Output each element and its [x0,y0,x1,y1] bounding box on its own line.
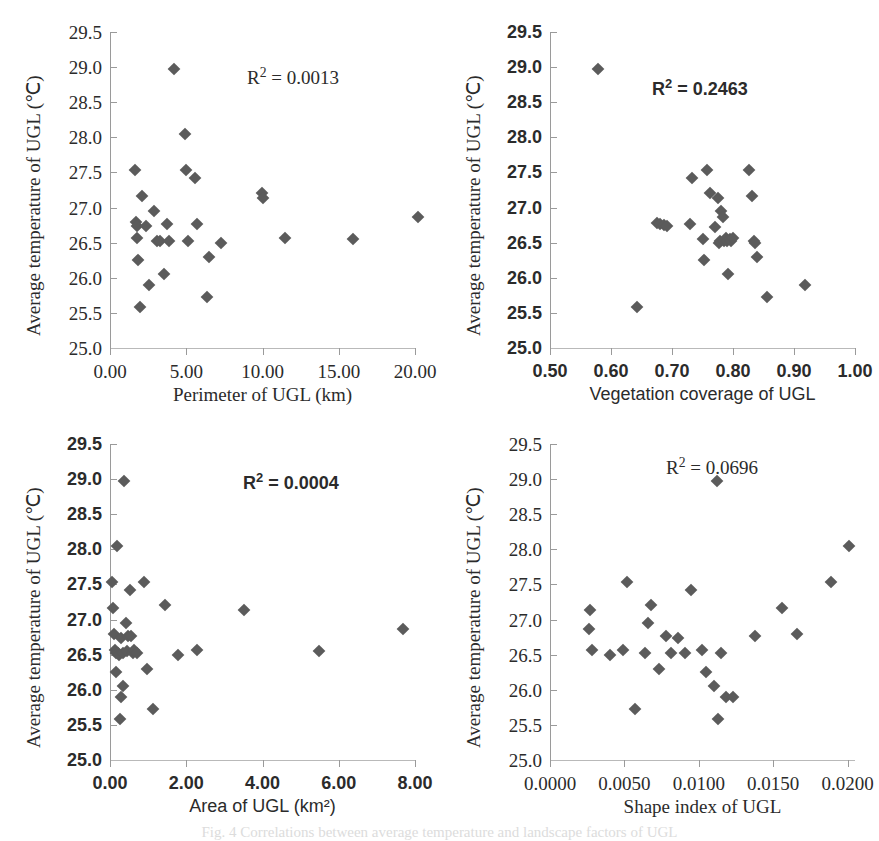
data-point [191,218,204,231]
x-tick-label-area-2: 4.00 [245,774,280,792]
y-tick-label-vegetation-2: 26.0 [507,269,542,287]
panel-area: Average temperature of UGL (℃) R2 = 0.00… [0,412,440,822]
data-point [799,278,812,291]
y-tick-vegetation-3 [550,243,557,244]
data-point [110,666,123,679]
y-tick-vegetation-6 [550,137,557,138]
data-point [697,233,710,246]
data-point [158,268,171,281]
x-tick-label-vegetation-4: 0.90 [776,362,811,380]
y-tick-label-shape-0: 25.0 [509,751,542,770]
figure-caption: Fig. 4 Correlations between average temp… [0,824,879,841]
data-point [791,628,804,641]
y-tick-label-shape-6: 28.0 [509,540,542,559]
y-tick-vegetation-1 [550,313,557,314]
data-point [136,189,149,202]
data-point [148,205,161,218]
data-point [684,217,697,230]
x-tick-perimeter-0 [110,348,111,355]
data-point [760,291,773,304]
data-point [825,575,838,588]
y-tick-label-area-4: 27.0 [67,611,102,629]
x-tick-label-vegetation-1: 0.60 [593,362,628,380]
y-axis-line-perimeter [110,32,111,348]
y-tick-perimeter-1 [110,313,117,314]
x-axis-title-perimeter: Perimeter of UGL (km) [110,385,415,406]
y-tick-label-perimeter-3: 26.5 [69,233,102,252]
data-point [161,217,174,230]
r-squared-text-perimeter: R2 = 0.0013 [247,67,339,88]
x-tick-perimeter-4 [415,348,416,355]
data-point [118,475,131,488]
data-point [743,163,756,176]
y-tick-area-2 [110,690,117,691]
data-point [140,662,153,675]
data-point [168,63,181,76]
data-point [129,163,142,176]
y-tick-label-shape-1: 25.5 [509,715,542,734]
x-tick-vegetation-1 [611,348,612,355]
data-point [313,645,326,658]
data-point [679,647,692,660]
x-tick-shape-1 [624,760,625,767]
y-tick-vegetation-9 [550,32,557,33]
data-point [257,192,270,205]
y-tick-shape-7 [550,514,557,515]
y-tick-label-area-6: 28.0 [67,540,102,558]
x-tick-area-2 [263,760,264,767]
y-tick-label-vegetation-5: 27.5 [507,163,542,181]
data-point [178,127,191,140]
data-point [715,646,728,659]
data-point [617,644,630,657]
x-tick-label-vegetation-3: 0.80 [715,362,750,380]
y-tick-label-perimeter-4: 27.0 [69,198,102,217]
x-tick-perimeter-3 [339,348,340,355]
r-squared-shape: R2 = 0.0696 [666,458,758,477]
data-point [396,622,409,635]
data-point [200,291,213,304]
y-tick-label-shape-5: 27.5 [509,575,542,594]
x-axis-line-vegetation [550,348,855,349]
data-point [132,254,145,267]
x-tick-label-area-4: 8.00 [397,774,432,792]
data-point [652,662,665,675]
data-point [203,250,216,263]
x-tick-area-4 [415,760,416,767]
y-tick-label-shape-9: 29.5 [509,435,542,454]
data-point [131,232,144,245]
x-tick-label-shape-3: 0.0150 [747,774,799,793]
data-point [278,232,291,245]
y-tick-perimeter-2 [110,278,117,279]
y-tick-label-vegetation-8: 29.0 [507,58,542,76]
y-tick-label-perimeter-9: 29.5 [69,23,102,42]
y-tick-shape-2 [550,690,557,691]
x-tick-shape-2 [699,760,700,767]
x-tick-label-perimeter-2: 10.00 [241,362,284,381]
y-tick-perimeter-9 [110,32,117,33]
y-tick-label-vegetation-0: 25.0 [507,339,542,357]
y-tick-shape-6 [550,549,557,550]
y-tick-label-vegetation-7: 28.5 [507,93,542,111]
data-point [123,584,136,597]
data-point [189,172,202,185]
y-tick-label-area-9: 29.5 [67,435,102,453]
x-tick-label-perimeter-3: 15.00 [317,362,360,381]
y-tick-label-shape-2: 26.0 [509,680,542,699]
data-point [642,617,655,630]
x-tick-label-area-3: 6.00 [321,774,356,792]
x-tick-vegetation-5 [855,348,856,355]
data-point [645,598,658,611]
y-tick-vegetation-4 [550,208,557,209]
data-point [171,648,184,661]
data-point [746,189,759,202]
data-point [106,601,119,614]
y-tick-label-shape-4: 27.0 [509,610,542,629]
y-tick-label-vegetation-6: 28.0 [507,128,542,146]
y-tick-label-perimeter-5: 27.5 [69,163,102,182]
y-tick-label-shape-8: 29.0 [509,470,542,489]
y-tick-label-area-1: 25.5 [67,716,102,734]
data-point [582,622,595,635]
y-tick-vegetation-2 [550,278,557,279]
data-point [115,690,128,703]
